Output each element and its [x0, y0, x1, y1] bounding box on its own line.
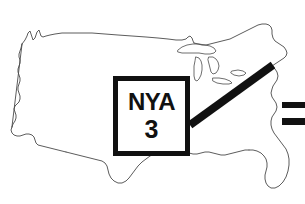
route-shield-code: NYA	[128, 90, 175, 114]
route-shield-number: 3	[145, 117, 159, 142]
route-shield-callout[interactable]: NYA 3	[113, 76, 190, 156]
figure-root: NYA 3	[0, 0, 305, 204]
callout-leader-line	[190, 65, 273, 125]
edge-bar-upper	[282, 102, 305, 108]
edge-bar-lower	[282, 118, 305, 125]
